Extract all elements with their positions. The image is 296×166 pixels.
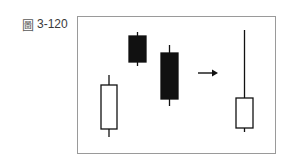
candlestick-diagram [0, 0, 296, 166]
candle-body-white [236, 98, 253, 128]
arrow-right-icon [198, 70, 218, 77]
candle-body-black [161, 53, 178, 99]
candle-left-2 [129, 32, 146, 66]
candle-right-1 [236, 30, 253, 132]
candle-body-white [101, 85, 117, 129]
candles-group [101, 30, 253, 137]
candle-left-3 [161, 45, 178, 106]
candle-body-black [129, 36, 146, 62]
candle-left-1 [101, 75, 117, 137]
